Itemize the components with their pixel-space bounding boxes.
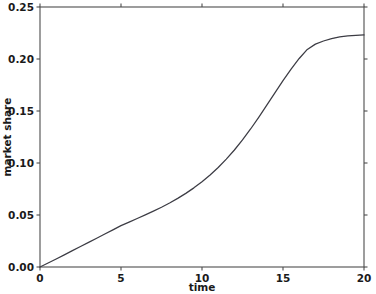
x-axis-title: time xyxy=(189,281,216,293)
x-tick-label: 15 xyxy=(276,272,291,284)
x-tick-label: 20 xyxy=(357,272,372,284)
line-chart-plot: 05101520 0.000.050.100.150.200.25 time m… xyxy=(0,0,376,294)
y-axis-title: market share xyxy=(1,98,13,177)
chart-figure: 05101520 0.000.050.100.150.200.25 time m… xyxy=(0,0,376,294)
y-tick-label: 0.00 xyxy=(8,261,34,273)
y-tick-label: 0.25 xyxy=(8,1,34,13)
plot-area-background xyxy=(40,7,364,267)
x-tick-label: 0 xyxy=(36,272,43,284)
y-tick-label: 0.20 xyxy=(8,53,34,65)
y-tick-label: 0.05 xyxy=(8,209,34,221)
x-tick-label: 5 xyxy=(117,272,124,284)
